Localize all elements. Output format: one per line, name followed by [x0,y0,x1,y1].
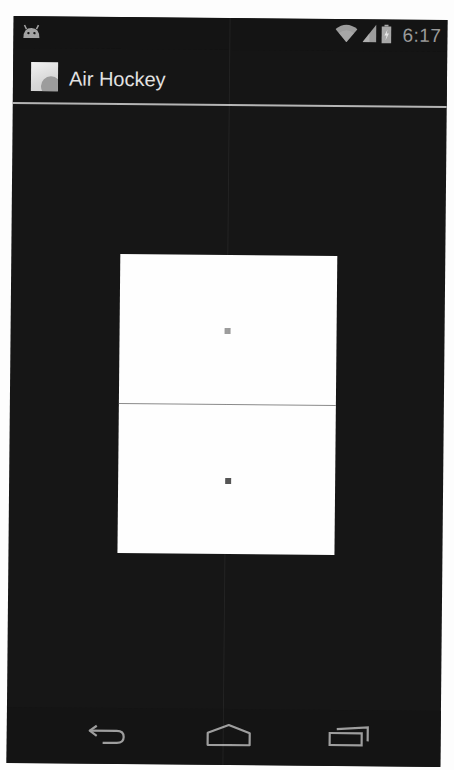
top-mallet[interactable] [225,328,231,334]
android-icon [21,24,41,38]
cell-signal-icon [362,24,376,46]
center-line [119,403,336,406]
status-time: 6:17 [402,25,441,47]
back-arrow-icon [87,723,127,749]
navigation-bar [6,707,441,767]
status-bar: 6:17 [13,16,447,52]
back-button[interactable] [71,708,142,765]
app-title: Air Hockey [69,66,166,91]
status-icons: 6:17 [335,23,441,48]
home-icon [206,723,252,751]
game-surface[interactable] [7,104,447,708]
bottom-mallet[interactable] [225,478,231,484]
home-button[interactable] [193,709,264,766]
action-bar: Air Hockey [13,48,447,106]
air-hockey-table[interactable] [117,254,337,555]
wifi-icon [335,24,357,46]
app-icon-circle [41,76,58,91]
device-screen: 6:17 Air Hockey [6,16,447,767]
battery-charging-icon [381,24,391,47]
app-launcher-icon[interactable] [31,62,58,91]
recent-apps-icon [328,725,372,751]
recents-button[interactable] [314,710,385,767]
